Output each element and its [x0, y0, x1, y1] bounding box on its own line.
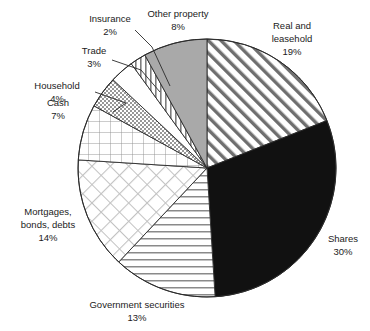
label-value: 7%: [51, 110, 65, 121]
label-text: Household: [34, 80, 79, 91]
slice-label-household: Household 4%: [34, 80, 79, 104]
slice-label-government-securities: Government securities 13%: [89, 299, 184, 323]
pie-chart-svg: Real and leasehold 19% Shares 30% Govern…: [0, 0, 370, 331]
label-text: bonds, debts: [21, 219, 76, 230]
label-value: 14%: [38, 232, 58, 243]
label-text: Trade: [82, 45, 106, 56]
label-text: Government securities: [89, 299, 184, 310]
slice-label-real-and-leasehold: Real and leasehold 19%: [272, 20, 313, 57]
pie-chart-container: Real and leasehold 19% Shares 30% Govern…: [0, 0, 370, 331]
label-value: 19%: [282, 46, 302, 57]
slice-label-trade: Trade 3%: [82, 45, 106, 69]
label-value: 8%: [171, 21, 185, 32]
label-text: Shares: [328, 233, 358, 244]
label-text: Mortgages,: [24, 206, 72, 217]
label-value: 30%: [333, 246, 353, 257]
label-value: 4%: [50, 93, 64, 104]
label-text: Real and: [273, 20, 311, 31]
label-text: Other property: [147, 8, 208, 19]
slice-label-other-property: Other property 8%: [147, 8, 208, 32]
slice-label-insurance: Insurance 2%: [89, 13, 131, 37]
label-value: 3%: [87, 58, 101, 69]
label-text: Insurance: [89, 13, 131, 24]
label-text: leasehold: [272, 33, 313, 44]
label-value: 13%: [127, 312, 147, 323]
slice-label-shares: Shares 30%: [328, 233, 358, 257]
label-value: 2%: [103, 26, 117, 37]
pie-slices-group: [78, 39, 336, 297]
slice-label-mortgages-bonds-debts: Mortgages, bonds, debts 14%: [21, 206, 76, 243]
